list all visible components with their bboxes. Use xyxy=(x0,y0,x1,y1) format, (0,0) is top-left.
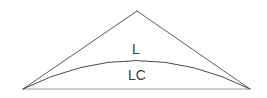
curve-geometry-svg: L LC xyxy=(0,0,267,98)
arc-length-label: L xyxy=(132,41,140,57)
right-tangent-line xyxy=(137,11,250,89)
long-chord-label: LC xyxy=(128,67,146,83)
left-tangent-line xyxy=(23,11,137,89)
tangent-length-diagram: L LC xyxy=(0,0,267,98)
